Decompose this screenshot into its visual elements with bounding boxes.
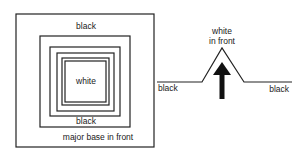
label-right-black: black [269, 84, 290, 94]
label-peak-white: white [211, 26, 232, 36]
label-center-white: white [75, 76, 96, 86]
nested-squares-figure: black white black major base in front [16, 14, 154, 147]
label-inner-black: black [76, 116, 97, 126]
profile-figure: white in front black black [157, 26, 292, 99]
label-left-black: black [158, 83, 179, 93]
label-peak-in-front: in front [209, 36, 236, 46]
caption-major-base: major base in front [63, 132, 134, 142]
diagram-canvas: black white black major base in front wh… [0, 0, 308, 159]
up-arrow-icon [213, 62, 231, 99]
label-outer-black: black [76, 21, 97, 31]
